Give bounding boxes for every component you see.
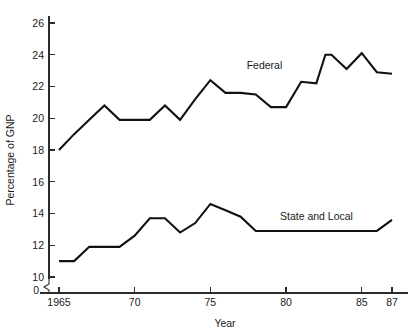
- y-axis-title: Percentage of GNP: [4, 114, 16, 205]
- y-tick-label-16: 16: [32, 176, 44, 188]
- x-tick-label-75: 75: [205, 296, 217, 308]
- series-label-state-and-local: State and Local: [280, 210, 353, 222]
- x-axis-ticks: [59, 287, 392, 293]
- y-axis-group: 101214161820222426 0: [32, 16, 55, 296]
- x-tick-label-1965: 1965: [47, 296, 71, 308]
- data-series-group: [59, 53, 392, 261]
- y-axis-zero-label: 0: [33, 284, 39, 296]
- y-tick-label-10: 10: [32, 271, 44, 283]
- x-tick-label-85: 85: [356, 296, 368, 308]
- line-chart: 101214161820222426 0 19657075808587 Year…: [0, 0, 413, 331]
- y-tick-label-14: 14: [32, 207, 44, 219]
- chart-container: 101214161820222426 0 19657075808587 Year…: [0, 0, 413, 331]
- y-tick-label-20: 20: [32, 112, 44, 124]
- y-tick-label-18: 18: [32, 144, 44, 156]
- x-axis-tick-labels: 19657075808587: [47, 296, 398, 308]
- x-tick-label-80: 80: [280, 296, 292, 308]
- x-axis-group: 19657075808587: [40, 287, 408, 308]
- y-tick-label-12: 12: [32, 239, 44, 251]
- series-line-federal: [59, 53, 392, 150]
- x-axis-title: Year: [214, 317, 236, 329]
- y-tick-label-24: 24: [32, 49, 44, 61]
- y-axis-tick-labels: 101214161820222426: [32, 17, 44, 283]
- y-axis-break-icon: [44, 279, 49, 293]
- y-tick-label-22: 22: [32, 80, 44, 92]
- y-tick-label-26: 26: [32, 17, 44, 29]
- x-tick-label-70: 70: [129, 296, 141, 308]
- y-axis-ticks: [49, 23, 55, 277]
- series-label-federal: Federal: [247, 59, 283, 71]
- x-tick-label-87: 87: [386, 296, 398, 308]
